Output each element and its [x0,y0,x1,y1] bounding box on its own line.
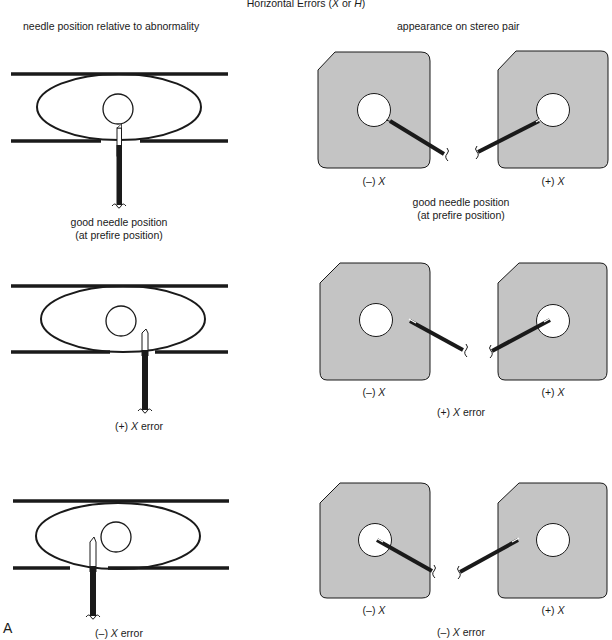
var: X [378,175,385,187]
sign: (–) [437,626,453,638]
sign: (–) [363,175,379,187]
row1-right-caption-line2: (at prefire position) [417,209,505,222]
var: X [558,604,565,616]
var: X [111,627,118,639]
row1-right-caption-line1: good needle position [413,196,510,209]
row1-left-caption-line2: (at prefire position) [75,229,163,242]
row2-right-caption: (+) X error [437,406,485,419]
row2-left-caption: (+) X error [115,420,163,433]
row1-stereo-left-label: (–) X [363,175,386,188]
var: X [558,175,565,187]
row3-breast-diagram [13,501,229,619]
rest: error [460,406,485,418]
row3-stereo-right-label: (+) X [541,604,564,617]
sign: (+) [541,386,557,398]
row3-right-caption: (–) X error [437,626,485,639]
sign: (–) [363,604,379,616]
sign: (+) [115,420,131,432]
row2-stereo-right-label: (+) X [541,386,564,399]
sign: (–) [363,386,379,398]
row2-stereo-left-film [320,263,468,380]
row2-breast-diagram [11,286,228,413]
rest: error [460,626,485,638]
sign: (–) [95,627,111,639]
sign: (+) [541,175,557,187]
row3-stereo-right-film [458,483,608,598]
rest: error [138,420,163,432]
row1-stereo-right-film [476,51,609,168]
rest: error [118,627,143,639]
var: X [131,420,138,432]
row1-left-caption-line1: good needle position [71,216,168,229]
row2-stereo-left-label: (–) X [363,386,386,399]
row2-stereo-right-film [490,263,608,380]
row3-stereo-left-film [320,483,436,598]
sign: (+) [541,604,557,616]
row3-left-caption: (–) X error [95,627,143,640]
row1-stereo-right-label: (+) X [541,175,564,188]
var: X [453,406,460,418]
var: X [558,386,565,398]
panel-letter: A [3,622,12,635]
row1-stereo-left-film [318,52,449,168]
row1-breast-diagram [11,74,228,208]
row3-stereo-left-label: (–) X [363,604,386,617]
var: X [378,604,385,616]
var: X [453,626,460,638]
var: X [378,386,385,398]
sign: (+) [437,406,453,418]
